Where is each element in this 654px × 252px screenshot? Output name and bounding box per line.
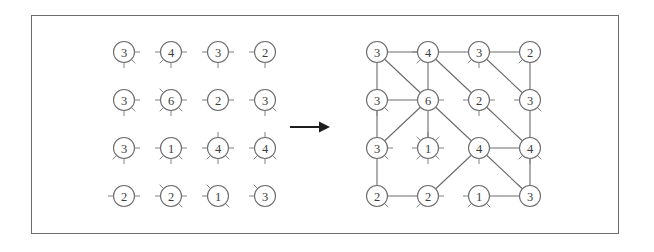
node-degree-label: 3: [476, 46, 482, 60]
node-degree-label: 3: [121, 94, 127, 108]
node-degree-label: 3: [527, 94, 533, 108]
node-degree-label: 6: [168, 94, 174, 108]
graph-edge: [384, 107, 421, 142]
node-degree-label: 3: [262, 94, 268, 108]
left-node-layer: 3432362331442213: [114, 42, 276, 207]
graph-edge: [486, 155, 523, 190]
graph-edge-layer: [377, 52, 530, 196]
node-degree-label: 1: [215, 190, 221, 204]
figure-root: 3432362331442213 3432362331442213: [0, 0, 654, 252]
graph-edge: [486, 59, 523, 94]
node-degree-label: 3: [262, 190, 268, 204]
node-degree-label: 1: [425, 142, 431, 156]
node-degree-label: 4: [527, 142, 534, 156]
node-degree-label: 4: [425, 46, 432, 60]
node-degree-label: 2: [374, 190, 380, 204]
node-degree-label: 3: [121, 142, 127, 156]
node-degree-label: 4: [476, 142, 483, 156]
graph-edge: [486, 107, 523, 142]
graph-edge: [435, 59, 472, 94]
node-degree-label: 2: [168, 190, 174, 204]
node-degree-label: 3: [374, 94, 380, 108]
node-degree-label: 2: [121, 190, 127, 204]
graph-edge: [435, 155, 472, 190]
node-degree-label: 3: [374, 142, 380, 156]
node-degree-label: 4: [262, 142, 269, 156]
figure-canvas: 3432362331442213 3432362331442213: [0, 0, 654, 252]
node-degree-label: 1: [168, 142, 174, 156]
node-degree-label: 4: [168, 46, 175, 60]
node-degree-label: 3: [215, 46, 221, 60]
node-degree-label: 6: [425, 94, 431, 108]
node-degree-label: 4: [215, 142, 222, 156]
node-degree-label: 1: [476, 190, 482, 204]
node-degree-label: 3: [527, 190, 533, 204]
node-degree-label: 2: [262, 46, 268, 60]
node-degree-label: 3: [374, 46, 380, 60]
node-degree-label: 2: [527, 46, 533, 60]
node-degree-label: 2: [215, 94, 221, 108]
graph-edge: [435, 107, 472, 142]
graph-edge: [384, 59, 421, 94]
transformation-arrow: [290, 122, 330, 133]
left-stub-layer: [108, 52, 276, 207]
node-degree-label: 2: [425, 190, 431, 204]
node-degree-label: 2: [476, 94, 482, 108]
node-degree-label: 3: [121, 46, 127, 60]
arrow-head-icon: [319, 122, 330, 133]
